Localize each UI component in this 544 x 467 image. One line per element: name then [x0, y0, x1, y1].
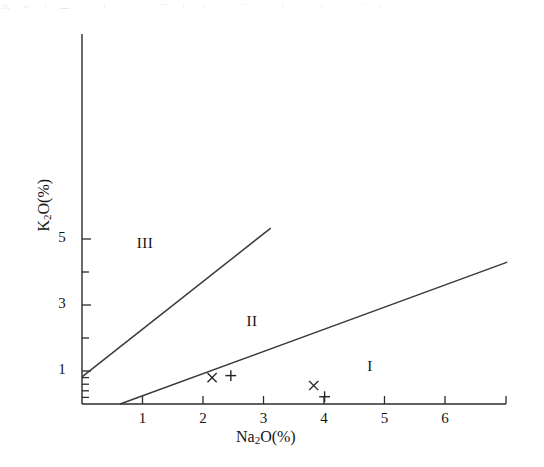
field-boundary-lines [82, 228, 507, 404]
field-II-I-boundary [120, 262, 507, 404]
x-axis-title-pre: Na [236, 428, 255, 445]
y-axis-title: K2O(%) [35, 152, 53, 258]
data-point-+ [319, 391, 330, 402]
x-tick-label: 6 [435, 410, 455, 427]
data-point-x [207, 373, 216, 382]
data-point-x [309, 381, 318, 390]
figure-container: ※ ﹖ ｜ ㄧ ＿ ｜ ﹍ ＿ ﹉ ｜ ︱ ﹏ ﹉ ＿ ｜ ﹍ ︱ ＿ ﹉ ｜ … [0, 0, 544, 467]
x-tick-label: 2 [193, 410, 213, 427]
y-axis-title-subscript: 2 [41, 214, 53, 220]
x-axis-title: Na2O(%) [236, 428, 296, 446]
x-tick-label: 1 [133, 410, 153, 427]
x-tick-label: 4 [314, 410, 334, 427]
y-tick-label: 5 [52, 229, 72, 246]
y-axis-title-post: O(%) [35, 179, 52, 215]
x-tick-label: 3 [254, 410, 274, 427]
data-point-+ [225, 370, 236, 381]
region-label-I: I [355, 358, 385, 375]
plot-canvas [0, 0, 544, 467]
x-axis-title-post: O(%) [260, 428, 296, 445]
x-tick-label: 5 [375, 410, 395, 427]
field-III-II-boundary [82, 228, 271, 377]
y-axis-title-pre: K [35, 220, 52, 232]
region-label-II: II [237, 313, 267, 330]
y-tick-label: 1 [52, 361, 72, 378]
region-label-III: III [130, 235, 160, 252]
y-tick-label: 3 [52, 295, 72, 312]
axes-group [82, 34, 506, 404]
data-point-markers [207, 370, 330, 402]
